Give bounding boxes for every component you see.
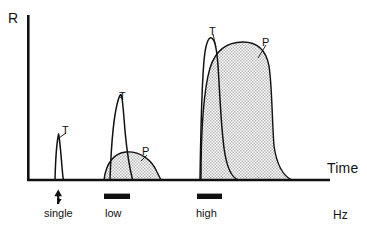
x-axis-label: Time — [327, 160, 358, 176]
curve-label-p-high: P — [262, 36, 269, 48]
p-curve-high-fill — [201, 42, 292, 180]
tick-label-low: low — [105, 207, 122, 219]
curve-label-t-low: T — [119, 90, 126, 102]
bar-marker-high — [197, 194, 222, 199]
p-curve-low-fill — [104, 152, 161, 180]
figure-canvas: R Time Hz T T P T P single low high — [0, 0, 367, 236]
curve-label-t-single: T — [62, 124, 69, 136]
tick-label-high: high — [196, 207, 217, 219]
curve-label-p-low: P — [142, 145, 149, 157]
tick-label-single: single — [44, 207, 73, 219]
bar-marker-low — [104, 194, 130, 199]
arrow-up-icon — [54, 190, 62, 205]
y-axis-label: R — [8, 10, 18, 26]
t-curve-single — [55, 134, 63, 180]
plot-svg — [0, 0, 367, 236]
curve-label-t-high: T — [209, 25, 216, 37]
x-axis-unit-label: Hz — [333, 208, 348, 222]
